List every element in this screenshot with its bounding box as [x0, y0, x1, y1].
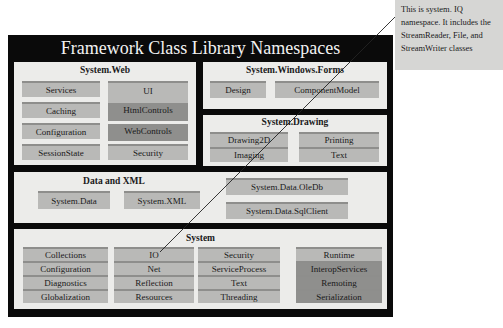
pointer-line	[0, 0, 503, 328]
